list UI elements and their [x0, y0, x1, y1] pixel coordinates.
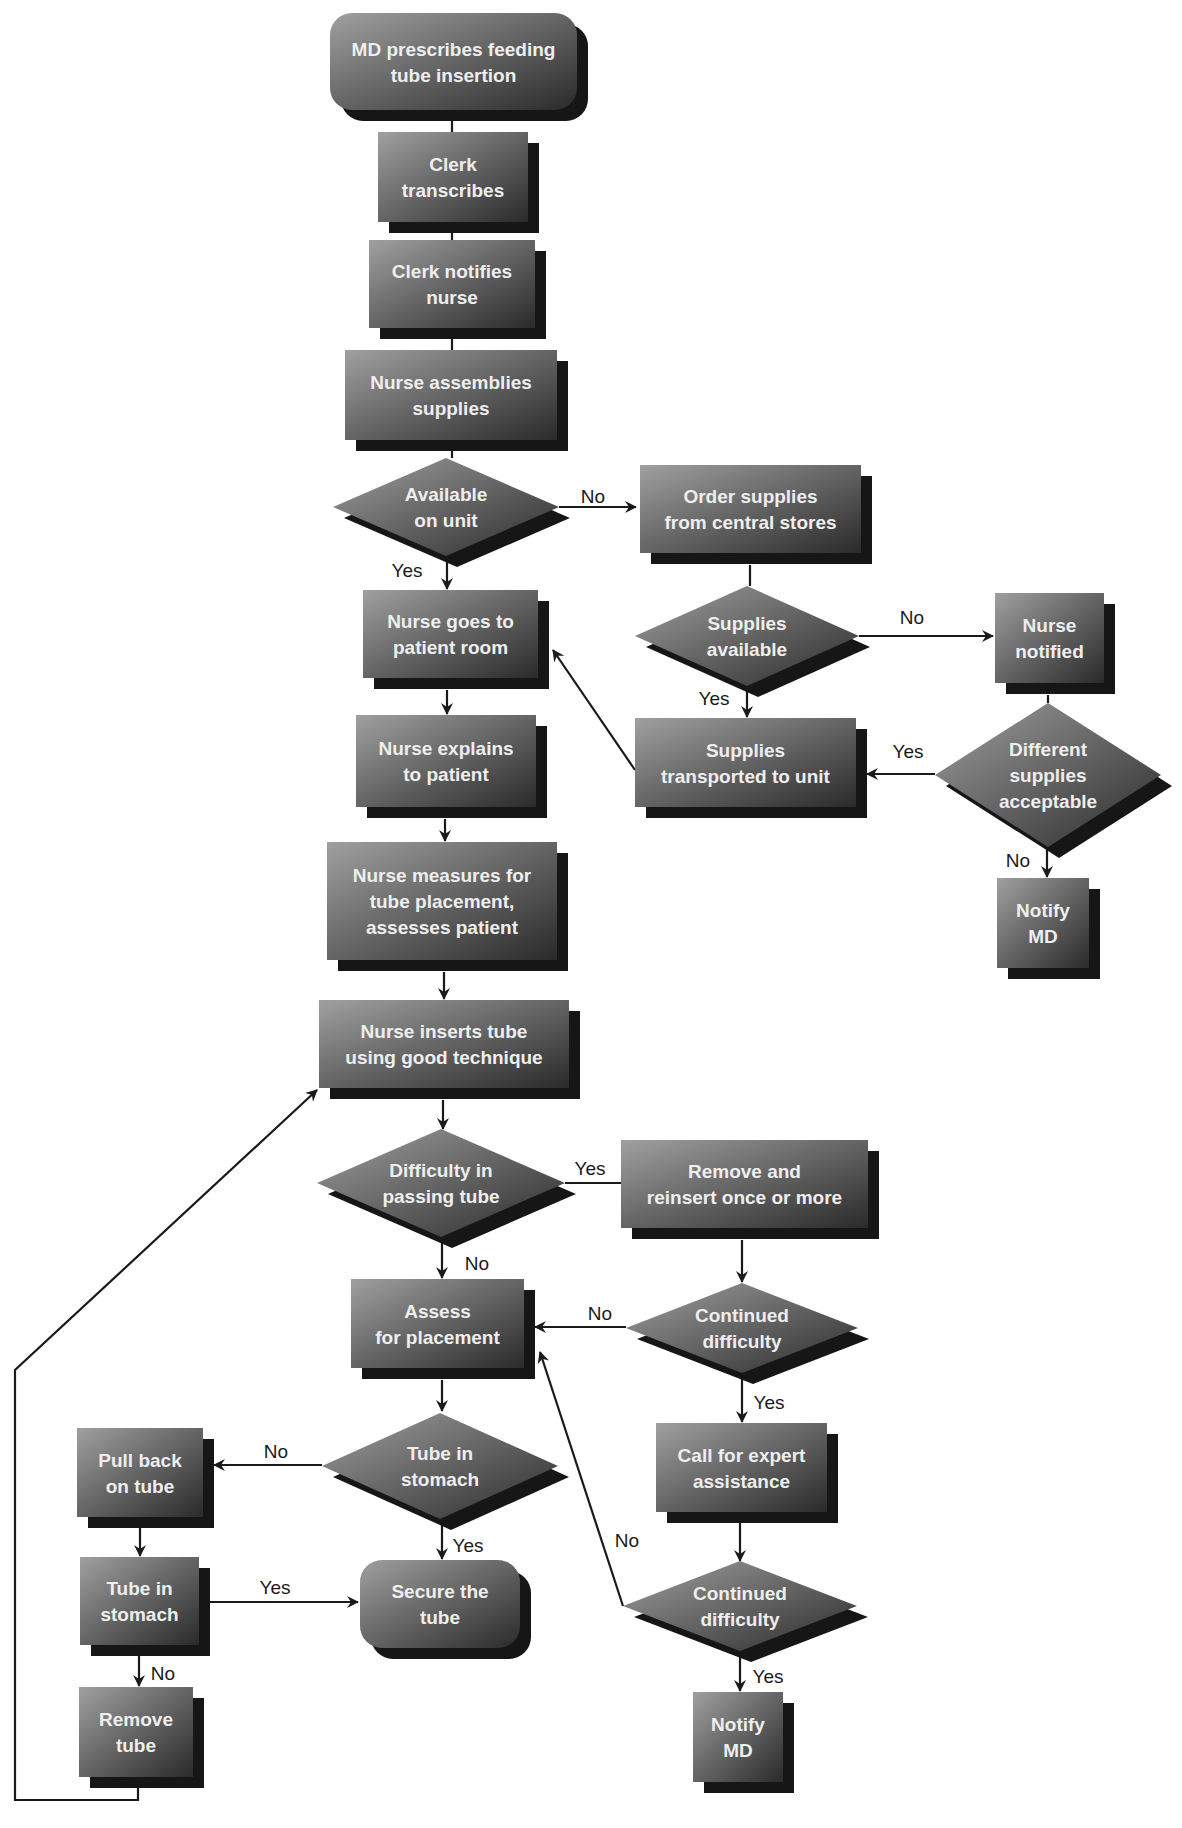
node-label-line: to patient — [403, 764, 489, 785]
node-remove-tube[interactable]: Removetube — [79, 1687, 204, 1788]
edge-label-no: No — [900, 607, 924, 628]
node-label-line: Nurse inserts tube — [361, 1021, 528, 1042]
connector-e13 — [553, 650, 635, 770]
node-label-line: MD — [1028, 926, 1058, 947]
process-box — [351, 1279, 524, 1368]
node-nurse-notified[interactable]: Nursenotified — [995, 593, 1115, 694]
node-label-line: Different — [1009, 739, 1088, 760]
node-label-line: Nurse assemblies — [370, 372, 532, 393]
node-tube-in-stomach-1[interactable]: Tube instomach — [322, 1413, 569, 1530]
edge-label-no: No — [615, 1530, 639, 1551]
node-label-line: Remove and — [688, 1161, 801, 1182]
edge-label-yes: Yes — [753, 1666, 784, 1687]
node-label-line: nurse — [426, 287, 478, 308]
node-clerk-notifies-nurse[interactable]: Clerk notifiesnurse — [369, 240, 546, 339]
process-box — [995, 593, 1104, 683]
node-notify-md-2[interactable]: NotifyMD — [693, 1692, 794, 1793]
node-label-line: stomach — [100, 1604, 178, 1625]
node-tube-in-stomach-2[interactable]: Tube instomach — [80, 1557, 210, 1656]
node-label-line: Supplies — [706, 740, 785, 761]
node-label-line: Continued — [695, 1305, 789, 1326]
node-label-line: Order supplies — [683, 486, 817, 507]
decision-diamond — [635, 586, 859, 686]
node-label-line: from central stores — [664, 512, 836, 533]
node-label-line: for placement — [375, 1327, 500, 1348]
node-label-line: using good technique — [345, 1047, 542, 1068]
node-label-line: Notify — [711, 1714, 765, 1735]
process-box — [356, 715, 536, 807]
node-label-line: Nurse goes to — [387, 611, 514, 632]
node-label-line: difficulty — [700, 1609, 780, 1630]
process-box — [369, 240, 535, 328]
node-nurse-explains[interactable]: Nurse explainsto patient — [356, 715, 547, 818]
terminal-box — [330, 13, 577, 110]
edge-label-yes: Yes — [392, 560, 423, 581]
node-pull-back-on-tube[interactable]: Pull backon tube — [77, 1428, 214, 1528]
node-label-line: on tube — [106, 1476, 175, 1497]
node-notify-md-1[interactable]: NotifyMD — [997, 878, 1100, 979]
decision-diamond — [322, 1413, 558, 1519]
terminal-box — [360, 1560, 520, 1648]
node-label-line: Nurse — [1023, 615, 1077, 636]
node-label-line: transcribes — [402, 180, 504, 201]
node-call-for-expert[interactable]: Call for expertassistance — [656, 1423, 838, 1523]
node-label-line: tube — [420, 1607, 460, 1628]
edge-label-yes: Yes — [893, 741, 924, 762]
nodes-layer: MD prescribes feedingtube insertionClerk… — [77, 13, 1172, 1793]
decision-diamond — [626, 1283, 858, 1373]
node-label-line: MD — [723, 1740, 753, 1761]
process-box — [656, 1423, 827, 1512]
node-label-line: tube — [116, 1735, 156, 1756]
node-order-supplies[interactable]: Order suppliesfrom central stores — [640, 465, 872, 564]
edge-label-yes: Yes — [260, 1577, 291, 1598]
node-label-line: Call for expert — [678, 1445, 806, 1466]
process-box — [363, 590, 538, 678]
node-nurse-assembles-supplies[interactable]: Nurse assembliessupplies — [345, 350, 568, 451]
process-box — [693, 1692, 783, 1782]
node-remove-and-reinsert[interactable]: Remove andreinsert once or more — [621, 1140, 879, 1239]
node-label-line: Pull back — [98, 1450, 182, 1471]
node-label-line: Available — [405, 484, 488, 505]
node-label-line: passing tube — [382, 1186, 499, 1207]
process-box — [997, 878, 1089, 968]
node-label-line: assistance — [693, 1471, 790, 1492]
node-label-line: supplies — [412, 398, 489, 419]
node-label-line: tube insertion — [391, 65, 517, 86]
process-box — [640, 465, 861, 553]
edge-label-yes: Yes — [575, 1158, 606, 1179]
node-label-line: Remove — [99, 1709, 173, 1730]
node-label-line: available — [707, 639, 787, 660]
process-box — [345, 350, 557, 440]
node-label-line: supplies — [1009, 765, 1086, 786]
node-nurse-inserts-tube[interactable]: Nurse inserts tubeusing good technique — [319, 1000, 580, 1099]
process-box — [378, 132, 528, 222]
node-different-supplies-acceptable[interactable]: Differentsuppliesacceptable — [935, 703, 1172, 858]
node-md-prescribes[interactable]: MD prescribes feedingtube insertion — [330, 13, 588, 121]
node-nurse-goes-to-room[interactable]: Nurse goes topatient room — [363, 590, 549, 689]
process-box — [621, 1140, 868, 1228]
node-label-line: reinsert once or more — [647, 1187, 842, 1208]
node-continued-difficulty-1[interactable]: Continueddifficulty — [626, 1283, 869, 1384]
node-supplies-transported[interactable]: Suppliestransported to unit — [635, 718, 867, 818]
node-clerk-transcribes[interactable]: Clerktranscribes — [378, 132, 539, 233]
node-label-line: on unit — [414, 510, 478, 531]
edge-label-yes: Yes — [453, 1535, 484, 1556]
node-nurse-measures[interactable]: Nurse measures fortube placement,assesse… — [327, 842, 568, 971]
process-box — [79, 1687, 193, 1777]
process-box — [77, 1428, 203, 1517]
node-label-line: assesses patient — [366, 917, 519, 938]
node-label-line: tube placement, — [370, 891, 515, 912]
decision-diamond — [623, 1561, 857, 1651]
node-label-line: Difficulty in — [389, 1160, 492, 1181]
node-label-line: Supplies — [707, 613, 786, 634]
node-available-on-unit[interactable]: Availableon unit — [333, 458, 570, 567]
node-difficulty-passing-tube[interactable]: Difficulty inpassing tube — [317, 1129, 576, 1248]
node-label-line: Nurse measures for — [353, 865, 532, 886]
node-assess-for-placement[interactable]: Assessfor placement — [351, 1279, 535, 1379]
node-supplies-available[interactable]: Suppliesavailable — [635, 586, 870, 697]
node-label-line: transported to unit — [661, 766, 831, 787]
node-label-line: Tube in — [407, 1443, 473, 1464]
node-secure-the-tube[interactable]: Secure thetube — [360, 1560, 531, 1659]
process-box — [80, 1557, 199, 1645]
node-continued-difficulty-2[interactable]: Continueddifficulty — [623, 1561, 868, 1662]
